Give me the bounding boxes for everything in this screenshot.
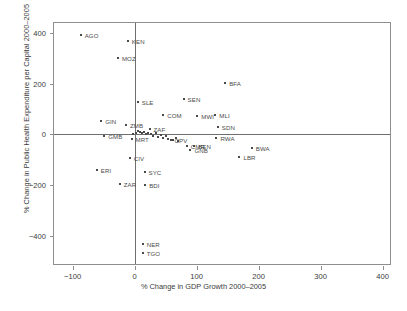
data-point <box>172 139 174 141</box>
data-point <box>175 137 177 139</box>
data-point-label: AGO <box>85 32 99 39</box>
data-point <box>251 147 253 149</box>
x-axis-title: % Change in GDP Growth 2000–2005 <box>0 282 407 291</box>
x-tick-mark <box>135 266 136 270</box>
y-tick-label: −400 <box>20 231 46 240</box>
plot-area: −1000100200300400 4002000−200−400 AGOKEN… <box>53 22 391 265</box>
data-point <box>117 57 119 59</box>
x-tick-label: 200 <box>252 272 265 281</box>
data-point-label: ZMB <box>130 121 143 128</box>
data-point-label: COM <box>167 111 182 118</box>
data-point-label: NER <box>147 240 160 247</box>
data-point <box>119 183 121 185</box>
x-tick-mark <box>259 266 260 270</box>
data-point-label: GIN <box>105 118 116 125</box>
data-point <box>238 156 240 158</box>
x-tick-label: 300 <box>314 272 327 281</box>
data-point-label: GMB <box>108 133 122 140</box>
y-tick-label: 400 <box>20 29 46 38</box>
y-tick-mark <box>50 185 54 186</box>
data-point <box>183 98 185 100</box>
data-point-label: BFA <box>229 80 241 87</box>
data-point <box>144 171 146 173</box>
y-tick-mark <box>50 33 54 34</box>
data-point <box>132 133 134 135</box>
data-point <box>142 252 144 254</box>
data-point <box>189 149 191 151</box>
data-point <box>155 132 157 134</box>
y-tick-label: 0 <box>20 130 46 139</box>
data-point-label: RWA <box>220 134 234 141</box>
data-point-label: KEN <box>132 37 145 44</box>
data-point <box>147 132 149 134</box>
data-point-label: ZAF <box>154 125 166 132</box>
y-tick-label: −200 <box>20 181 46 190</box>
data-point-label: SLE <box>142 99 154 106</box>
data-point-label: SYC <box>149 168 162 175</box>
data-point <box>135 132 137 134</box>
y-tick-mark <box>50 236 54 237</box>
data-point <box>217 126 219 128</box>
data-point <box>186 145 188 147</box>
data-point <box>131 138 133 140</box>
data-point <box>215 137 217 139</box>
x-tick-label: 400 <box>376 272 389 281</box>
data-point <box>80 34 82 36</box>
data-point <box>125 124 127 126</box>
data-point <box>137 101 139 103</box>
data-point-label: CIV <box>134 154 144 161</box>
data-point-label: GNB <box>194 146 208 153</box>
data-point <box>224 82 226 84</box>
data-point-label: MOZ <box>122 55 136 62</box>
data-point <box>103 135 105 137</box>
data-point-label: LBR <box>243 153 255 160</box>
x-tick-mark <box>321 266 322 270</box>
data-point <box>144 184 146 186</box>
data-point-label: BWA <box>256 144 270 151</box>
data-point-label: ERI <box>101 167 111 174</box>
x-tick-label: −100 <box>64 272 81 281</box>
data-point <box>96 169 98 171</box>
data-point-label: MRT <box>136 135 149 142</box>
data-point <box>129 157 131 159</box>
data-point-label: ZAR <box>124 180 137 187</box>
data-point <box>127 40 129 42</box>
data-point-label: BDI <box>149 182 159 189</box>
data-point <box>162 114 164 116</box>
data-point <box>152 135 154 137</box>
x-tick-label: 100 <box>190 272 203 281</box>
y-tick-mark <box>50 134 54 135</box>
data-point-label: SEN <box>188 95 201 102</box>
data-point <box>157 136 159 138</box>
scatter-plot-figure: % Change in Public Health Expenditure pe… <box>0 0 407 311</box>
data-point-label: MLI <box>219 111 229 118</box>
x-tick-label: 0 <box>132 272 136 281</box>
data-point <box>214 114 216 116</box>
y-tick-mark <box>50 84 54 85</box>
x-tick-mark <box>73 266 74 270</box>
data-point <box>137 130 139 132</box>
data-point-label: MWI <box>201 113 214 120</box>
y-tick-label: 200 <box>20 79 46 88</box>
x-tick-mark <box>383 266 384 270</box>
data-point <box>149 128 151 130</box>
x-tick-mark <box>197 266 198 270</box>
data-point <box>100 120 102 122</box>
data-point <box>142 243 144 245</box>
data-point <box>177 140 179 142</box>
data-point-label: TGO <box>147 250 161 257</box>
data-point <box>160 134 162 136</box>
data-point <box>196 115 198 117</box>
data-point-label: SDN <box>222 124 235 131</box>
data-point <box>167 138 169 140</box>
